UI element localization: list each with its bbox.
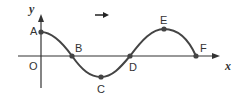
origin-label: O: [29, 60, 38, 72]
label-a: A: [30, 25, 38, 37]
x-axis-label: x: [224, 59, 231, 73]
point-a: [38, 29, 43, 34]
point-e: [161, 26, 166, 31]
point-f: [193, 53, 198, 58]
y-axis-arrowhead-icon: [38, 14, 44, 22]
point-d: [127, 53, 132, 58]
label-b: B: [75, 42, 82, 54]
wave-curve: [41, 29, 196, 77]
label-d: D: [129, 61, 137, 73]
x-axis-arrowhead-icon: [212, 53, 220, 59]
point-b: [69, 53, 74, 58]
wave-diagram: y x O A B C D E F: [0, 0, 245, 99]
point-c: [98, 74, 103, 79]
label-c: C: [97, 83, 105, 95]
label-f: F: [200, 42, 207, 54]
label-e: E: [160, 14, 167, 26]
direction-arrow-icon: [103, 12, 109, 18]
y-axis-label: y: [27, 2, 35, 16]
